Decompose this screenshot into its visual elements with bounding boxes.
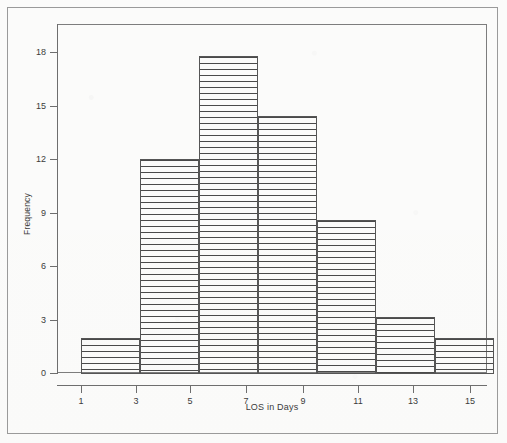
bar-bin-3-5: [140, 159, 199, 374]
x-tick-9: [303, 385, 304, 393]
y-tick-label-12: 12: [24, 154, 46, 164]
bar-bin-1-3: [81, 338, 140, 374]
y-tick-12: [50, 159, 58, 160]
x-tick-5: [190, 385, 191, 393]
x-tick-13: [413, 385, 414, 393]
y-tick-3: [50, 320, 58, 321]
bar-bin-11-13: [376, 317, 435, 374]
x-tick-11: [358, 385, 359, 393]
x-tick-15: [470, 385, 471, 393]
x-tick-7: [246, 385, 247, 393]
y-tick-0: [50, 373, 58, 374]
y-axis-title: Frequency: [22, 193, 32, 235]
x-tick-1: [81, 385, 82, 393]
y-tick-6: [50, 266, 58, 267]
y-tick-9: [50, 213, 58, 214]
bar-bin-7-9: [258, 116, 317, 374]
bar-bin-9-11: [317, 220, 376, 374]
y-tick-label-15: 15: [24, 101, 46, 111]
y-tick-15: [50, 106, 58, 107]
y-axis-line: [57, 24, 58, 374]
x-tick-3: [136, 385, 137, 393]
bar-bin-5-7: [199, 56, 258, 374]
bar-bin-13-15: [435, 338, 494, 374]
y-tick-label-18: 18: [24, 47, 46, 57]
y-tick-18: [50, 52, 58, 53]
y-tick-label-6: 6: [24, 261, 46, 271]
x-axis-title: LOS in Days: [57, 402, 487, 412]
y-tick-label-0: 0: [24, 368, 46, 378]
y-tick-label-3: 3: [24, 315, 46, 325]
histogram-screenshot: 18 15 12 9 6 3 0 Frequency 1 3 5 7 9 11 …: [0, 0, 507, 443]
x-axis-line: [57, 385, 487, 386]
